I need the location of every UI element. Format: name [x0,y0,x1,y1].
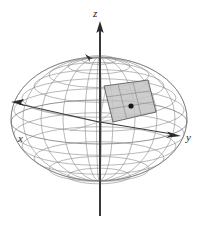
y-axis-label: y [185,131,191,143]
patch-quad [104,80,156,122]
z-axis: z [92,7,104,216]
meridian-000 [11,57,187,181]
ellipsoid-meridians [11,57,187,181]
ellipsoid-figure: z y x [0,0,209,227]
patch-center-point [128,103,133,108]
parallel-lat-75 [68,58,130,74]
ellipsoid-silhouette [11,57,187,181]
y-axis-shaft [100,122,172,134]
parallel-lat-m60 [49,157,149,182]
ellipsoid-wireframe [11,56,187,184]
meridian-120 [85,57,113,181]
ellipsoid-figure-canvas: z y x [0,0,209,227]
z-axis-label: z [92,7,98,19]
surface-element-patch [104,80,156,122]
x-axis-label: x [17,132,23,144]
parallel-lat-m30 [22,127,176,166]
meridian-030 [23,57,175,181]
